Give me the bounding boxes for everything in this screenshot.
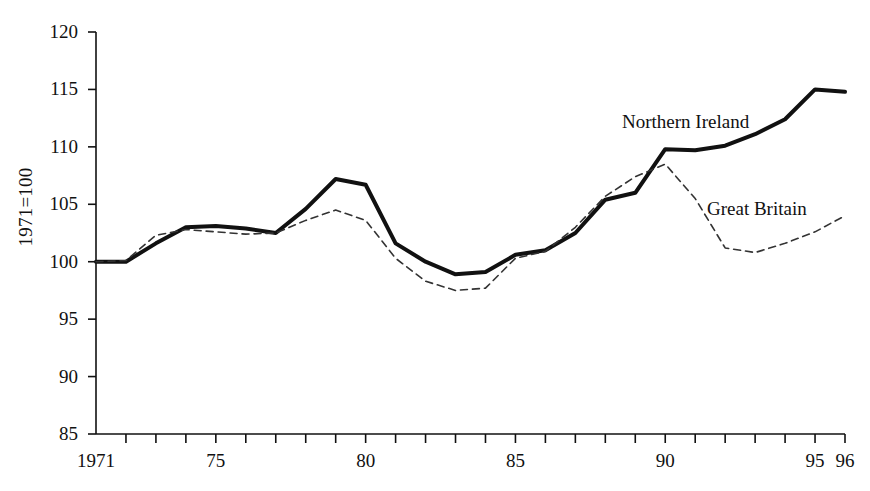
y-tick-label: 95 [20, 309, 78, 328]
x-tick-label: 96 [815, 451, 870, 470]
y-tick-marks [88, 32, 96, 434]
y-tick-label: 120 [20, 22, 78, 41]
chart-container: 1971=100 120115110105100959085 197175808… [0, 0, 870, 491]
series-annotation-great-britain: Great Britain [707, 199, 807, 218]
x-tick-label: 90 [635, 451, 695, 470]
y-tick-label: 100 [20, 252, 78, 271]
plot-area [0, 0, 870, 491]
y-tick-label: 90 [20, 367, 78, 386]
x-tick-label: 80 [336, 451, 396, 470]
y-tick-label: 115 [20, 79, 78, 98]
y-tick-label: 110 [20, 137, 78, 156]
y-tick-label: 105 [20, 194, 78, 213]
x-tick-label: 75 [186, 451, 246, 470]
x-axis [96, 434, 845, 443]
x-tick-label: 1971 [66, 451, 126, 470]
y-axis [88, 32, 96, 434]
y-tick-label: 85 [20, 424, 78, 443]
x-tick-marks [126, 434, 845, 443]
series-annotation-northern-ireland: Northern Ireland [622, 112, 749, 131]
x-tick-label: 85 [485, 451, 545, 470]
